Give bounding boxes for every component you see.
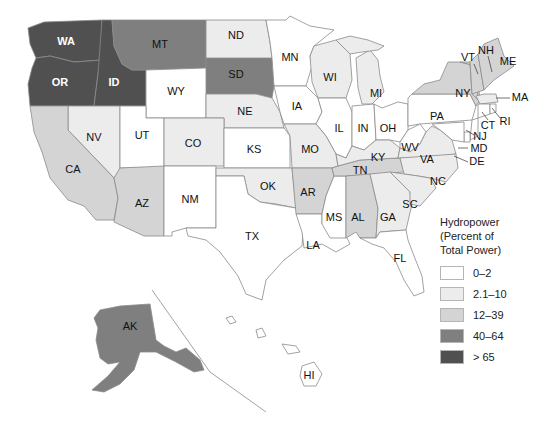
label-NY: NY xyxy=(455,87,471,99)
label-TX: TX xyxy=(245,230,260,242)
label-PA: PA xyxy=(430,110,445,122)
label-KS: KS xyxy=(247,143,262,155)
label-NJ: NJ xyxy=(473,130,486,142)
legend-swatch xyxy=(440,329,464,343)
legend-item: 2.1–10 xyxy=(440,284,550,303)
state-CT[interactable] xyxy=(478,104,490,118)
label-MO: MO xyxy=(301,143,319,155)
label-OH: OH xyxy=(380,122,397,134)
label-RI: RI xyxy=(500,115,511,127)
label-MN: MN xyxy=(281,51,298,63)
label-MT: MT xyxy=(152,38,168,50)
legend-title: Hydropower (Percent of Total Power) xyxy=(440,215,550,257)
label-SC: SC xyxy=(402,198,417,210)
label-WA: WA xyxy=(57,35,75,47)
label-IN: IN xyxy=(358,122,369,134)
label-VA: VA xyxy=(420,153,435,165)
label-AL: AL xyxy=(351,211,364,223)
label-MD: MD xyxy=(470,142,487,154)
label-ME: ME xyxy=(500,55,517,67)
label-NM: NM xyxy=(181,193,198,205)
label-ND: ND xyxy=(228,29,244,41)
label-NH: NH xyxy=(478,44,494,56)
legend-swatch xyxy=(440,266,464,280)
label-OR: OR xyxy=(52,76,69,88)
label-OK: OK xyxy=(260,180,277,192)
legend-item: 40–64 xyxy=(440,326,550,345)
label-FL: FL xyxy=(394,252,407,264)
label-HI: HI xyxy=(304,369,315,381)
state-MA[interactable] xyxy=(476,94,498,104)
legend-swatch xyxy=(440,308,464,322)
label-CA: CA xyxy=(65,163,81,175)
label-NC: NC xyxy=(430,175,446,187)
label-SD: SD xyxy=(228,68,243,80)
hawaii-islands xyxy=(282,344,300,354)
label-KY: KY xyxy=(371,151,386,163)
hawaii-islands xyxy=(256,328,266,338)
state-FL[interactable] xyxy=(360,230,424,296)
legend-item: 12–39 xyxy=(440,305,550,324)
legend-swatch xyxy=(440,287,464,301)
label-MI: MI xyxy=(370,87,382,99)
label-TN: TN xyxy=(353,164,368,176)
label-WI: WI xyxy=(323,71,336,83)
label-AK: AK xyxy=(123,320,138,332)
label-LA: LA xyxy=(306,239,320,251)
legend: Hydropower (Percent of Total Power) 0–2 … xyxy=(440,215,550,368)
label-WV: WV xyxy=(401,141,419,153)
label-ID: ID xyxy=(109,76,120,88)
legend-item: 0–2 xyxy=(440,263,550,282)
label-UT: UT xyxy=(135,129,150,141)
label-MA: MA xyxy=(512,91,529,103)
legend-swatch xyxy=(440,350,464,364)
label-GA: GA xyxy=(380,211,397,223)
label-MS: MS xyxy=(326,211,343,223)
label-AR: AR xyxy=(300,186,315,198)
label-IL: IL xyxy=(334,122,343,134)
label-CO: CO xyxy=(185,137,202,149)
state-DE[interactable] xyxy=(464,132,470,142)
label-AZ: AZ xyxy=(135,197,149,209)
label-WY: WY xyxy=(167,85,185,97)
label-VT: VT xyxy=(461,51,475,63)
hawaii-islands xyxy=(226,316,236,324)
label-NV: NV xyxy=(86,131,102,143)
state-AK[interactable] xyxy=(92,304,204,392)
legend-item: > 65 xyxy=(440,347,550,366)
label-IA: IA xyxy=(292,100,303,112)
label-DE: DE xyxy=(469,155,484,167)
label-NE: NE xyxy=(237,105,252,117)
